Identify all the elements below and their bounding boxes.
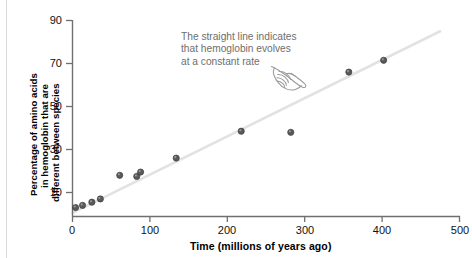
x-tick-label-0: 0: [58, 224, 86, 236]
x-tick-label-400: 400: [368, 224, 396, 236]
data-point-highlight: [135, 174, 137, 176]
data-point: [173, 155, 179, 161]
y-axis-ticks: [66, 21, 72, 193]
data-point-highlight: [174, 156, 176, 158]
data-point: [79, 202, 85, 208]
data-point-highlight: [289, 130, 291, 132]
data-point-highlight: [81, 203, 83, 205]
y-axis-title-line-1: Percentage of amino acids: [28, 73, 39, 196]
data-point: [138, 169, 144, 175]
data-point-highlight: [347, 70, 349, 72]
y-tick-label-70: 70: [44, 57, 62, 69]
y-axis-title-line-3: different between species: [50, 83, 61, 202]
data-point: [288, 129, 294, 135]
data-point: [346, 69, 352, 75]
annotation-line-2: that hemoglobin evolves: [181, 43, 297, 55]
data-point-highlight: [74, 206, 76, 208]
data-point-highlight: [98, 197, 100, 199]
data-point-highlight: [118, 173, 120, 175]
x-tick-label-200: 200: [213, 224, 241, 236]
data-point-highlight: [90, 200, 92, 202]
annotation-line-1: The straight line indicates: [181, 31, 297, 43]
pointing-hand-icon: [272, 67, 306, 90]
data-point: [117, 172, 123, 178]
x-axis-title: Time (millions of years ago): [190, 240, 331, 252]
y-axis-title-line-2: in hemoglobin that are: [39, 84, 50, 188]
annotation-line-3: at a constant rate: [181, 56, 297, 68]
data-point: [97, 196, 103, 202]
x-tick-label-300: 300: [291, 224, 319, 236]
data-point: [73, 204, 79, 210]
chart-annotation: The straight line indicates that hemoglo…: [181, 31, 297, 68]
x-tick-label-500: 500: [446, 224, 472, 236]
figure-page: 90 70 50 30 10 0 100 200 300 400 500 Tim…: [0, 0, 472, 258]
data-point-highlight: [139, 170, 141, 172]
data-point-highlight: [239, 129, 241, 131]
data-point-highlight: [382, 58, 384, 60]
data-point: [89, 199, 95, 205]
y-tick-label-90: 90: [44, 14, 62, 26]
x-tick-label-100: 100: [136, 224, 164, 236]
data-point: [238, 128, 244, 134]
data-point: [381, 57, 387, 63]
